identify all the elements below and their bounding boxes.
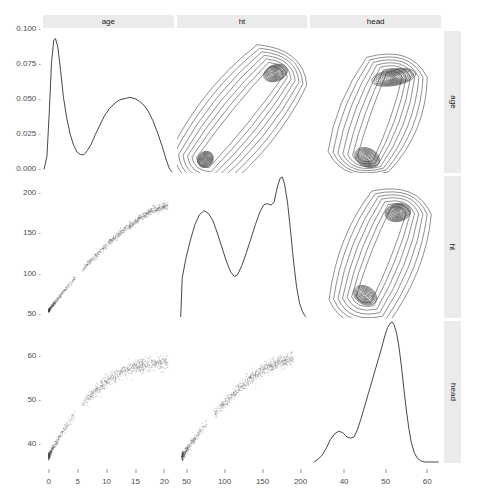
panel-age-head[interactable] xyxy=(310,31,441,173)
panel-canvas xyxy=(310,31,441,173)
scatter-point xyxy=(67,284,68,285)
scatter-point xyxy=(262,371,263,372)
scatter-point xyxy=(112,383,113,384)
scatter-point xyxy=(160,367,161,368)
scatter-point xyxy=(95,394,96,395)
contour-lines xyxy=(329,189,431,318)
scatter-point xyxy=(275,360,276,361)
panel-age-age[interactable] xyxy=(43,31,174,173)
scatter-point xyxy=(121,368,122,369)
scatter-point xyxy=(116,370,117,371)
scatter-point xyxy=(88,397,89,398)
scatter-point xyxy=(214,411,215,412)
scatter-point xyxy=(103,252,104,253)
scatter-point xyxy=(162,204,163,205)
scatter-point xyxy=(104,384,105,385)
scatter-point xyxy=(161,364,162,365)
panel-ht-head[interactable] xyxy=(310,176,441,318)
scatter-point xyxy=(159,204,160,205)
scatter-point xyxy=(131,367,132,368)
scatter-point xyxy=(66,423,67,424)
scatter-point xyxy=(202,432,203,433)
scatter-point xyxy=(120,370,121,371)
scatter-point xyxy=(114,237,115,238)
scatter-point xyxy=(103,386,104,387)
panel-canvas xyxy=(177,176,308,318)
panel-age-ht[interactable] xyxy=(177,31,308,173)
scatter-point xyxy=(98,387,99,388)
scatter-point xyxy=(138,370,139,371)
scatter-point xyxy=(115,371,116,372)
panel-head-age[interactable] xyxy=(43,321,174,463)
scatter-point xyxy=(150,368,151,369)
scatter-point xyxy=(144,212,145,213)
scatter-point xyxy=(234,392,235,393)
scatter-point xyxy=(120,230,121,231)
scatter-point xyxy=(242,385,243,386)
scatter-point xyxy=(94,254,95,255)
scatter-point xyxy=(120,232,121,233)
scatter-point xyxy=(150,365,151,366)
scatter-points xyxy=(181,351,293,461)
scatter-point xyxy=(137,361,138,362)
scatter-point xyxy=(218,406,219,407)
scatter-point xyxy=(275,362,276,363)
scatter-point xyxy=(121,233,122,234)
scatter-point xyxy=(52,449,53,450)
panel-ht-age[interactable] xyxy=(43,176,174,318)
scatter-point xyxy=(229,401,230,402)
scatter-point xyxy=(91,390,92,391)
scatter-point xyxy=(73,281,74,282)
scatter-point xyxy=(220,404,221,405)
scatter-point xyxy=(98,254,99,255)
scatter-point xyxy=(114,375,115,376)
scatter-points xyxy=(48,353,168,461)
panel-head-ht[interactable] xyxy=(177,321,308,463)
scatter-point xyxy=(265,366,266,367)
scatter-point xyxy=(218,408,219,409)
scatter-point xyxy=(74,416,75,417)
y-axis-row-3: 40-50-60- xyxy=(0,333,41,474)
scatter-point xyxy=(191,439,192,440)
scatter-point xyxy=(99,390,100,391)
scatter-point xyxy=(62,431,63,432)
scatter-point xyxy=(259,365,260,366)
scatter-point xyxy=(185,454,186,455)
scatter-point xyxy=(251,371,252,372)
x-tick-mark xyxy=(135,469,136,473)
scatter-point xyxy=(243,388,244,389)
scatter-point xyxy=(58,439,59,440)
scatter-point xyxy=(144,363,145,364)
scatter-point xyxy=(164,205,165,206)
scatter-point xyxy=(85,268,86,269)
y-tick-label: 40- xyxy=(27,439,41,448)
scatter-point xyxy=(87,401,88,402)
scatter-point xyxy=(276,362,277,363)
scatter-point xyxy=(272,356,273,357)
scatter-point xyxy=(160,355,161,356)
scatter-point xyxy=(273,366,274,367)
scatter-point xyxy=(290,357,291,358)
scatter-point xyxy=(289,359,290,360)
scatter-point xyxy=(89,264,90,265)
scatter-point xyxy=(111,376,112,377)
panel-ht-ht[interactable] xyxy=(177,176,308,318)
scatter-point xyxy=(109,383,110,384)
scatter-point xyxy=(197,439,198,440)
scatter-point xyxy=(161,372,162,373)
scatter-point xyxy=(234,393,235,394)
scatter-point xyxy=(58,299,59,300)
scatter-point xyxy=(136,223,137,224)
scatter-point xyxy=(190,442,191,443)
scatter-point xyxy=(279,362,280,363)
scatter-point xyxy=(58,297,59,298)
scatter-point xyxy=(248,384,249,385)
scatter-point xyxy=(84,404,85,405)
scatter-point xyxy=(162,362,163,363)
scatter-point xyxy=(193,441,194,442)
scatter-point xyxy=(248,379,249,380)
panel-head-head[interactable] xyxy=(310,321,441,463)
x-tick-mark xyxy=(262,469,263,473)
scatter-point xyxy=(166,363,167,364)
scatter-point xyxy=(273,367,274,368)
